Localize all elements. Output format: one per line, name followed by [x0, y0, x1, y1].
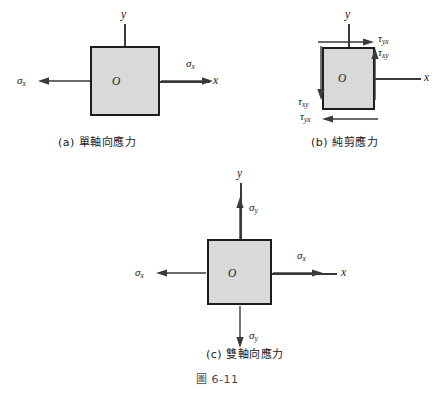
- origin-label-c: O: [228, 268, 236, 280]
- origin-label-a: O: [112, 76, 120, 88]
- sigma-x-right-label-a: σx: [186, 58, 195, 70]
- stress-element-figure: y x O σx σx (a) 單軸向應力 y x O: [0, 0, 444, 395]
- x-axis-label-a: x: [213, 75, 218, 87]
- stress-element-square-c: [207, 239, 272, 305]
- sigma-y-bottom-label-c: σy: [249, 330, 258, 342]
- stress-element-square-a: [90, 46, 160, 116]
- y-axis-label-b: y: [345, 9, 350, 21]
- tau-yx-bottom-arrow-b: [322, 113, 378, 125]
- sigma-y-top-label-c: σy: [249, 202, 258, 214]
- tau-yx-top-label-b: τyx: [378, 33, 389, 45]
- sigma-x-right-label-c: σx: [297, 250, 306, 262]
- y-axis-label-c: y: [237, 168, 242, 180]
- sigma-x-left-arrow-c: [156, 267, 206, 279]
- tau-xy-left-label-b: τxy: [298, 96, 309, 108]
- origin-label-b: O: [338, 73, 346, 85]
- panel-caption-a: (a) 單軸向應力: [58, 133, 136, 149]
- y-axis-label-a: y: [121, 9, 126, 21]
- sigma-x-left-arrow-a: [38, 75, 90, 87]
- panel-pure-shear: y x O τyx τxy τxy τyx (b) 純剪應力: [230, 0, 444, 165]
- sigma-x-left-label-c: σx: [135, 267, 144, 279]
- x-axis-label-b: x: [424, 72, 429, 84]
- sigma-y-bottom-arrow-c: [234, 306, 246, 348]
- tau-xy-left-arrow-b: [315, 46, 327, 100]
- tau-yx-bottom-label-b: τyx: [300, 111, 311, 123]
- stress-element-square-b: [322, 47, 375, 110]
- sigma-x-right-arrow-a: [161, 75, 213, 87]
- panel-caption-b: (b) 純剪應力: [311, 133, 378, 149]
- tau-xy-right-label-b: τxy: [378, 47, 389, 59]
- figure-number-label: 圖 6-11: [196, 370, 238, 386]
- panel-uniaxial-stress: y x O σx σx (a) 單軸向應力: [0, 0, 230, 165]
- panel-caption-c: (c) 雙軸向應力: [206, 345, 284, 361]
- panel-biaxial-stress: y x O σy σy σx σx (c) 雙軸向應力: [120, 175, 380, 360]
- sigma-y-top-arrow-c: [234, 197, 246, 239]
- sigma-x-left-label-a: σx: [17, 75, 26, 87]
- sigma-x-right-arrow-c: [273, 267, 323, 279]
- x-axis-label-c: x: [341, 267, 346, 279]
